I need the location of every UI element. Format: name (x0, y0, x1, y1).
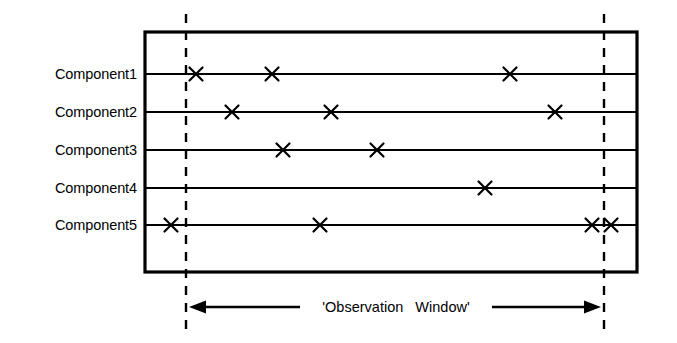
arrow-head (584, 301, 601, 314)
outer-rectangle (145, 32, 637, 272)
component-label-1: Component1 (55, 66, 137, 82)
component-label-4: Component4 (55, 180, 137, 196)
component-label-5: Component5 (55, 217, 137, 233)
observation-window-label: 'Observation Window' (322, 299, 469, 315)
component-label-3: Component3 (55, 142, 137, 158)
diagram-canvas: Component1Component2Component3Component4… (0, 0, 677, 343)
observation-window-right-arrow (492, 301, 601, 314)
observation-window-left-arrow (189, 301, 300, 314)
arrow-head (189, 301, 206, 314)
timeline-diagram-svg (0, 0, 677, 343)
component-label-2: Component2 (55, 104, 137, 120)
